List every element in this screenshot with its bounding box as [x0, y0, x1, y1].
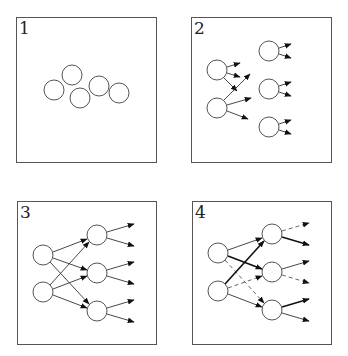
- panel-2: 2: [192, 18, 332, 163]
- node-circle: [262, 300, 282, 320]
- node-circle: [33, 282, 53, 302]
- edge-arrow: [107, 238, 134, 246]
- edge-arrow: [107, 224, 134, 232]
- node-circle: [44, 80, 64, 100]
- node-circle: [62, 65, 82, 85]
- diagram-canvas: 1234: [0, 0, 348, 356]
- edge-arrow: [279, 44, 291, 48]
- edge-arrow: [279, 82, 291, 86]
- panel-label: 1: [19, 18, 30, 38]
- node-circle: [207, 60, 227, 80]
- edge-arrow-bold: [282, 237, 309, 245]
- edge-arrow-dashed: [282, 275, 309, 283]
- edge-arrow: [279, 120, 291, 124]
- panel-3: 3: [18, 202, 157, 345]
- edge-arrow: [227, 63, 240, 67]
- node-circle: [87, 263, 107, 283]
- node-circle: [208, 281, 228, 301]
- node-circle: [262, 262, 282, 282]
- edge-arrow: [107, 300, 134, 308]
- node-circle: [259, 117, 279, 137]
- edge-arrow: [53, 258, 87, 270]
- edge-arrow-bold: [282, 299, 309, 307]
- edge-arrow: [227, 98, 251, 105]
- node-circle: [259, 79, 279, 99]
- edge-arrow: [227, 111, 248, 119]
- node-circle: [87, 225, 107, 245]
- node-circle: [109, 83, 129, 103]
- edge-arrow: [224, 74, 250, 100]
- edge-arrow: [282, 313, 309, 321]
- node-circle: [87, 301, 107, 321]
- node-circle: [262, 224, 282, 244]
- panel-label: 3: [20, 202, 31, 222]
- node-circle: [208, 243, 228, 263]
- panel-label: 2: [194, 18, 205, 38]
- edge-arrow-dashed: [282, 223, 309, 231]
- edge-arrow: [107, 314, 134, 322]
- edge-arrow: [282, 261, 309, 269]
- edge-arrow: [107, 276, 134, 284]
- panel-label: 4: [195, 202, 206, 222]
- node-circle: [259, 41, 279, 61]
- node-circle: [207, 98, 227, 118]
- edge-arrow: [53, 276, 87, 289]
- edge-arrow: [107, 262, 134, 270]
- edge-arrow: [279, 130, 291, 134]
- panel-4: 4: [193, 202, 332, 345]
- edge-arrow-dashed: [225, 260, 264, 303]
- node-circle: [33, 245, 53, 265]
- edge-arrow: [228, 294, 262, 307]
- edge-arrow: [50, 242, 89, 285]
- edge-arrow: [279, 54, 291, 58]
- node-circle: [89, 76, 109, 96]
- panel-1: 1: [17, 18, 157, 163]
- panels-group: 1234: [17, 18, 332, 345]
- edge-arrow: [227, 73, 240, 77]
- edge-arrow: [279, 92, 291, 96]
- node-circle: [70, 88, 90, 108]
